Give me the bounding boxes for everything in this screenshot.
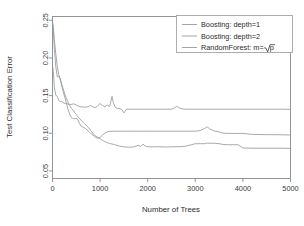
x-tick-label: 3000: [187, 184, 203, 193]
y-tick-label: 0.05: [41, 164, 50, 178]
series-line: [53, 68, 291, 113]
x-axis-title: Number of Trees: [142, 205, 200, 214]
chart-figure: 0.050.100.150.200.25 0100020003000400050…: [0, 0, 304, 226]
chart-legend: Boosting: depth=1Boosting: depth=2Random…: [177, 16, 293, 53]
legend-label: Boosting: depth=1: [201, 20, 260, 29]
y-tick-label: 0.15: [41, 88, 50, 102]
legend-math-suffix: p: [270, 43, 274, 52]
y-tick-label: 0.10: [41, 126, 50, 140]
y-tick-label: 0.25: [41, 13, 50, 27]
x-tick-label: 4000: [235, 184, 251, 193]
x-tick-label: 0: [50, 184, 54, 193]
legend-label: RandomForest: m=: [201, 43, 264, 52]
legend-label: Boosting: depth=2: [201, 32, 260, 41]
x-tick-label: 5000: [282, 184, 298, 193]
x-tick-label: 1000: [92, 184, 108, 193]
x-axis-ticks: 010002000300040005000: [50, 179, 298, 194]
y-tick-label: 0.20: [41, 51, 50, 65]
y-axis-title: Test Classification Error: [5, 56, 14, 138]
x-tick-label: 2000: [139, 184, 155, 193]
chart-svg: 0.050.100.150.200.25 0100020003000400050…: [0, 0, 304, 226]
y-axis-ticks: 0.050.100.150.200.25: [41, 13, 52, 178]
